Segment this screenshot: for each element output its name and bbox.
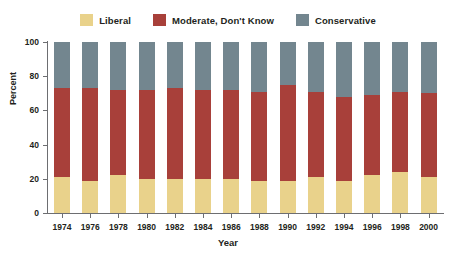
bar-segment — [139, 90, 155, 179]
bar-segment — [364, 175, 380, 213]
y-axis-tick-mark — [43, 179, 47, 180]
x-axis-tick-mark — [90, 213, 91, 218]
legend-item: Conservative — [296, 14, 376, 26]
legend-swatch-icon — [80, 14, 93, 26]
bar-segment — [251, 92, 267, 181]
bar-stack — [336, 42, 352, 213]
bar-stack — [110, 42, 126, 213]
bar-stack — [364, 42, 380, 213]
legend-item: Liberal — [80, 14, 131, 26]
x-axis-tick-mark — [118, 213, 119, 218]
bar-segment — [167, 179, 183, 213]
bar-segment — [82, 181, 98, 213]
bar-segment — [280, 85, 296, 181]
bar-segment — [223, 42, 239, 90]
bar-segment — [195, 42, 211, 90]
x-axis-tick-mark — [259, 213, 260, 218]
bar-stack — [392, 42, 408, 213]
bar-stack — [195, 42, 211, 213]
bar-stack — [82, 42, 98, 213]
bar-segment — [421, 177, 437, 213]
bar-segment — [392, 92, 408, 172]
legend-swatch-icon — [296, 14, 309, 26]
bar-segment — [139, 42, 155, 90]
x-axis-tick-mark — [344, 213, 345, 218]
bar-stack — [223, 42, 239, 213]
x-axis-tick-mark — [62, 213, 63, 218]
y-axis-tick-label: 100 — [25, 37, 39, 47]
bar-segment — [110, 175, 126, 213]
legend-label: Liberal — [99, 15, 131, 26]
x-axis-title: Year — [0, 237, 456, 248]
bar-segment — [167, 88, 183, 179]
legend-swatch-icon — [153, 14, 166, 26]
bar-segment — [392, 42, 408, 92]
plot-area: 020406080100 — [47, 42, 442, 213]
bar-segment — [110, 42, 126, 90]
bar-segment — [223, 179, 239, 213]
bar-segment — [82, 42, 98, 88]
y-axis-tick-mark — [43, 76, 47, 77]
bar-stack — [167, 42, 183, 213]
x-axis-tick-mark — [288, 213, 289, 218]
x-axis-tick-mark — [203, 213, 204, 218]
y-axis-tick-label: 40 — [30, 140, 39, 150]
y-axis-tick-mark — [43, 110, 47, 111]
legend-label: Moderate, Don't Know — [172, 15, 274, 26]
bar-segment — [364, 95, 380, 175]
bar-segment — [54, 177, 70, 213]
y-axis-tick-mark — [43, 145, 47, 146]
stacked-bar-chart: LiberalModerate, Don't KnowConservative … — [0, 0, 456, 262]
bar-segment — [308, 177, 324, 213]
bar-segment — [280, 181, 296, 213]
y-axis-tick-label: 60 — [30, 105, 39, 115]
bar-segment — [392, 172, 408, 213]
bar-stack — [139, 42, 155, 213]
bar-segment — [280, 42, 296, 85]
y-axis-tick-label: 0 — [34, 208, 39, 218]
y-axis-tick-label: 20 — [30, 174, 39, 184]
bar-segment — [223, 90, 239, 179]
y-axis-tick-label: 80 — [30, 71, 39, 81]
bar-segment — [195, 179, 211, 213]
bar-segment — [195, 90, 211, 179]
bar-stack — [251, 42, 267, 213]
bar-segment — [54, 42, 70, 88]
x-axis-tick-mark — [316, 213, 317, 218]
bar-segment — [110, 90, 126, 176]
x-axis-line — [47, 213, 444, 214]
x-axis-tick-mark — [429, 213, 430, 218]
bar-stack — [308, 42, 324, 213]
legend-item: Moderate, Don't Know — [153, 14, 274, 26]
bar-stack — [421, 42, 437, 213]
bar-stack — [280, 42, 296, 213]
chart-legend: LiberalModerate, Don't KnowConservative — [0, 14, 456, 26]
bar-segment — [54, 88, 70, 177]
bar-segment — [336, 181, 352, 213]
bar-segment — [336, 42, 352, 97]
bar-stack — [54, 42, 70, 213]
x-axis-tick-label: 2000 — [409, 222, 449, 232]
bar-segment — [82, 88, 98, 180]
legend-label: Conservative — [315, 15, 376, 26]
bar-segment — [421, 93, 437, 177]
y-axis-title: Percent — [8, 72, 18, 105]
y-axis-tick-mark — [43, 42, 47, 43]
x-axis-tick-mark — [372, 213, 373, 218]
bar-segment — [308, 42, 324, 92]
x-axis-tick-mark — [175, 213, 176, 218]
bar-segment — [308, 92, 324, 178]
bar-segment — [251, 42, 267, 92]
y-axis-tick-mark — [43, 213, 47, 214]
bar-segment — [364, 42, 380, 95]
x-axis-tick-mark — [231, 213, 232, 218]
x-axis-tick-mark — [400, 213, 401, 218]
bar-segment — [167, 42, 183, 88]
x-axis-tick-mark — [147, 213, 148, 218]
bar-segment — [336, 97, 352, 181]
bar-segment — [421, 42, 437, 93]
bar-segment — [251, 181, 267, 213]
bar-segment — [139, 179, 155, 213]
